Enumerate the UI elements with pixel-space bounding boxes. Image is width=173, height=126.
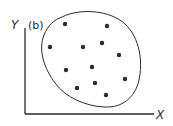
data-point: [93, 81, 97, 85]
data-point: [123, 77, 127, 81]
data-point: [64, 68, 68, 72]
data-point: [100, 41, 104, 45]
data-point: [90, 65, 94, 69]
data-points: [48, 22, 127, 97]
y-axis-label: Y: [11, 18, 20, 32]
data-point: [63, 22, 67, 26]
cluster-boundary: [42, 12, 141, 108]
data-point: [104, 93, 108, 97]
data-point: [117, 53, 121, 57]
data-point: [81, 45, 85, 49]
data-point: [48, 45, 52, 49]
scatter-diagram: Y (b) X: [0, 0, 173, 126]
data-point: [75, 86, 79, 90]
x-axis-label: X: [155, 108, 165, 122]
panel-label: (b): [28, 19, 44, 32]
data-point: [105, 24, 109, 28]
